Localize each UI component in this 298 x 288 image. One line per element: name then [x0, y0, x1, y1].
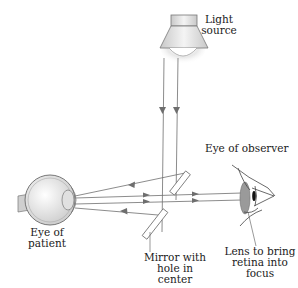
arrowhead — [192, 198, 199, 203]
reflected-rays — [75, 173, 185, 215]
crystalline-lens — [62, 190, 74, 210]
return-ray-lower — [75, 200, 242, 204]
incident-ray-left — [162, 58, 164, 232]
convex-lens — [240, 182, 250, 214]
mirror-lower-half — [142, 209, 168, 239]
arrowhead — [173, 107, 180, 114]
lens-label: Lens to bring retina into focus — [222, 246, 298, 279]
pupil — [252, 191, 256, 201]
eye-of-patient-label: Eye of patient — [22, 227, 72, 249]
incident-ray-right — [176, 58, 178, 200]
light-source-label: Light source — [196, 14, 242, 36]
mirror-label: Mirror with hole in center — [140, 252, 210, 285]
eye-of-patient-graphic — [18, 175, 76, 225]
incident-rays — [160, 58, 178, 232]
arrowhead — [159, 107, 166, 114]
arrowhead — [143, 199, 150, 204]
eye-of-observer-graphic — [232, 165, 275, 226]
eye-of-observer-label: Eye of observer — [205, 143, 291, 154]
arrowhead — [192, 192, 199, 197]
ophthalmoscope-diagram: Light source Eye of patient Mirror with … — [0, 0, 298, 288]
reflected-ray-lower — [75, 208, 158, 215]
return-rays — [75, 193, 242, 204]
arrowhead — [120, 208, 128, 215]
arrowhead — [143, 193, 150, 198]
mirror-with-hole — [142, 171, 190, 239]
lamp-cap — [171, 15, 197, 26]
arrowhead — [128, 182, 135, 189]
return-ray-upper — [75, 193, 242, 198]
mirror-upper-half — [170, 171, 191, 195]
